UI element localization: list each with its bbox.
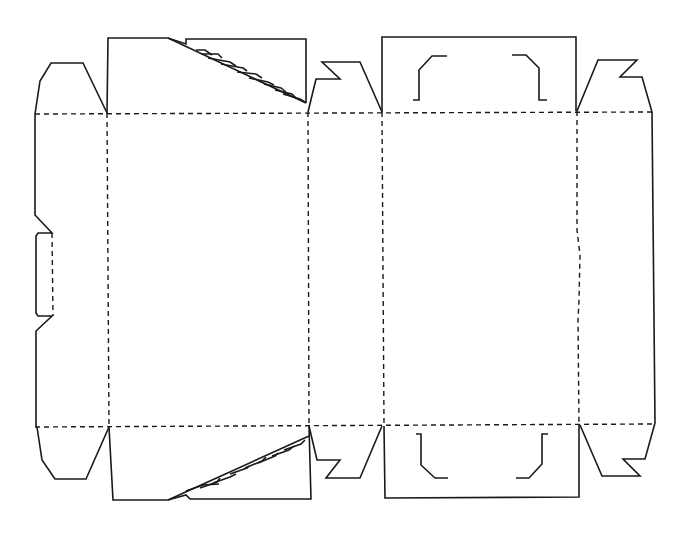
dust-flap-top-side-right xyxy=(577,60,652,112)
front-bottom-flap-outline xyxy=(109,426,311,500)
fold-line-top xyxy=(35,112,652,114)
front-bottom-flap xyxy=(109,426,311,500)
dieline-canvas xyxy=(0,0,687,534)
side-right xyxy=(577,60,655,476)
dust-flap-top-side-left xyxy=(308,62,382,112)
fold-line-front-right xyxy=(308,112,309,426)
fold-lines xyxy=(35,111,652,427)
glue-flap-left xyxy=(35,63,109,479)
dust-flap-bottom-side-right xyxy=(580,423,655,476)
front-top-flap xyxy=(107,38,306,113)
hook-slit-top-left xyxy=(413,56,447,100)
hook-slit-bottom-right xyxy=(516,434,548,478)
hook-slit-bottom-left xyxy=(416,434,448,478)
fold-line-back-left xyxy=(382,112,384,426)
dust-flap-bottom-side-left xyxy=(309,426,382,478)
dust-flap-bottom-left xyxy=(37,427,109,479)
side-left-flaps xyxy=(308,62,382,478)
fold-line-bottom xyxy=(35,424,652,427)
front-top-flap-outline xyxy=(107,38,306,113)
fold-line-glue-tab xyxy=(52,233,53,316)
hook-slit-top-right xyxy=(512,55,547,100)
glue-flap-outer-edge xyxy=(35,114,52,427)
back-flaps xyxy=(382,37,579,498)
back-bottom-flap-outline xyxy=(384,424,579,498)
front-top-flap-diagonal xyxy=(168,38,306,103)
fold-line-front-left xyxy=(107,113,109,427)
side-right-outer-edge xyxy=(652,112,655,423)
dust-flap-top-left xyxy=(35,63,107,114)
fold-line-back-right xyxy=(577,111,580,425)
